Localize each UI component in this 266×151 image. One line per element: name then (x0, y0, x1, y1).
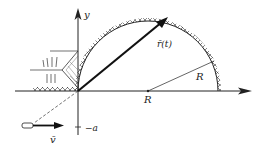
position-vector-label: r̄(t) (157, 39, 172, 49)
position-vector (78, 17, 168, 91)
diagram: y r̄(t) R R v̄ −a (0, 0, 266, 151)
dashed-trajectory (34, 91, 78, 123)
radius-line (148, 61, 214, 91)
ground-hatching (33, 87, 78, 91)
inflow-region (30, 51, 78, 88)
velocity-arrow-icon (54, 122, 64, 129)
projectile (22, 122, 64, 129)
velocity-label: v̄ (50, 134, 56, 145)
radius-label-inside: R (195, 71, 204, 82)
neg-a-label: −a (85, 123, 98, 133)
radius-label-axis: R (143, 94, 152, 105)
center-point (147, 90, 149, 92)
y-axis-label: y (83, 9, 90, 20)
